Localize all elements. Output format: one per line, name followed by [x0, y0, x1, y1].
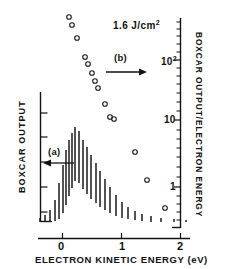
data-point [86, 62, 91, 67]
y-right-axis-title: BOXCAR OUTPUT/ELECTRON ENERGY [195, 32, 203, 217]
series-a-bars [40, 127, 186, 222]
right-arrow-head [139, 69, 147, 76]
y-left-axis-title: BOXCAR OUTPUT [18, 100, 27, 193]
series-b-points [67, 15, 168, 211]
data-point [93, 79, 98, 84]
series-b-label: (b) [114, 53, 127, 63]
series-a-label: (a) [48, 147, 61, 157]
y-right-tick-label-10: 10 [164, 115, 176, 125]
x-tick-label-2: 2 [177, 241, 183, 252]
data-point [112, 117, 117, 122]
figure-container: 0 1 2 ELECTRON KINETIC ENERGY (eV) 102 1… [0, 0, 228, 269]
fluence-annotation: 1.6 J/cm2 [113, 19, 160, 31]
x-axis-title: ELECTRON KINETIC ENERGY (eV) [35, 255, 208, 265]
y-right-tick-label-1: 1 [170, 182, 176, 192]
series-b-arrow-group [106, 69, 147, 76]
data-point [70, 23, 75, 28]
data-point [67, 15, 72, 20]
x-tick-label-0: 0 [58, 241, 64, 252]
y-right-tick-exponent: 2 [173, 55, 177, 62]
data-point [163, 206, 168, 211]
x-axis-group [38, 233, 190, 239]
y-right-tick-mantissa: 10 [161, 56, 173, 67]
data-point [103, 102, 108, 107]
y-right-tick-label-100: 102 [161, 55, 177, 67]
fluence-exponent: 2 [156, 19, 160, 26]
data-point [90, 71, 95, 76]
x-tick-label-1: 1 [119, 241, 125, 252]
data-point [145, 178, 150, 183]
data-point [96, 86, 101, 91]
fluence-value: 1.6 J/cm [113, 20, 156, 31]
left-axis-group [41, 92, 53, 222]
data-point [133, 150, 138, 155]
left-arrow-head [43, 160, 51, 167]
data-point [75, 36, 80, 41]
data-point [83, 55, 88, 60]
